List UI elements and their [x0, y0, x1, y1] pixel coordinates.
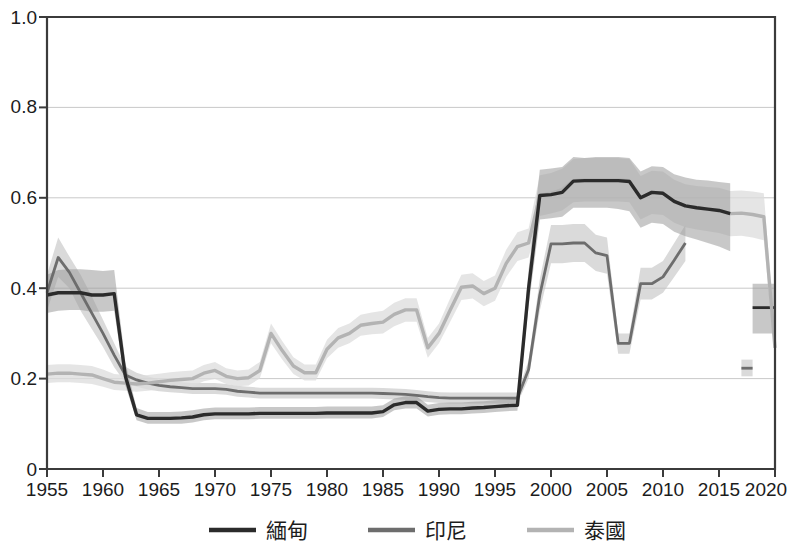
x-tick-label-2010: 2010 — [642, 479, 684, 500]
legend-label-myanmar: 緬甸 — [266, 519, 308, 543]
x-tick-label-1955: 1955 — [26, 479, 68, 500]
legend-label-thailand: 泰國 — [584, 519, 626, 543]
legend-label-indonesia: 印尼 — [425, 519, 467, 543]
x-tick-label-1965: 1965 — [138, 479, 180, 500]
x-tick-label-2015: 2015 — [698, 479, 740, 500]
y-tick-label-0.2: 0.2 — [11, 368, 37, 389]
x-tick-label-1975: 1975 — [250, 479, 292, 500]
x-tick-label-1980: 1980 — [306, 479, 348, 500]
y-tick-label-0: 0 — [26, 459, 37, 480]
x-tick-label-1985: 1985 — [362, 479, 404, 500]
y-tick-label-0.6: 0.6 — [11, 187, 37, 208]
x-tick-label-1970: 1970 — [194, 479, 236, 500]
y-tick-label-0.4: 0.4 — [11, 278, 38, 299]
x-tick-label-2020: 2020 — [745, 479, 787, 500]
x-tick-label-2000: 2000 — [530, 479, 572, 500]
line-chart-figure: 1.0 0.8 0.6 0.4 0.2 0 1955 1960 1965 197… — [0, 0, 787, 556]
chart-svg: 1.0 0.8 0.6 0.4 0.2 0 1955 1960 1965 197… — [0, 0, 787, 556]
y-tick-label-0.8: 0.8 — [11, 96, 37, 117]
x-tick-label-1960: 1960 — [82, 479, 124, 500]
x-tick-label-2005: 2005 — [586, 479, 628, 500]
y-tick-label-1.0: 1.0 — [11, 7, 37, 28]
x-tick-label-1990: 1990 — [418, 479, 460, 500]
x-tick-label-1995: 1995 — [474, 479, 516, 500]
